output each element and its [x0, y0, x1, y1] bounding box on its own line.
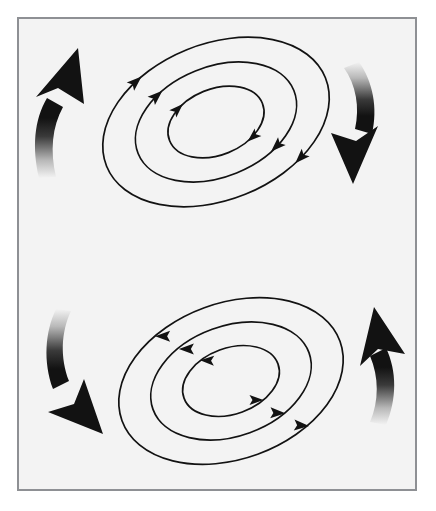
- lower-flow-arrow-5: [270, 407, 285, 419]
- lower-flow-arrow-1: [155, 331, 170, 342]
- lower-right-arrow: [360, 307, 405, 425]
- lower-flow-arrow-4: [249, 395, 263, 405]
- lower-vortex-ring-middle: [134, 301, 328, 461]
- lower-left-arrow: [47, 309, 103, 434]
- lower-right-arrow-shaft: [370, 348, 394, 425]
- upper-left-arrow-shaft: [35, 98, 63, 178]
- lower-vortex-ring-outer: [95, 268, 366, 494]
- upper-left-arrow-head: [36, 48, 84, 104]
- vortex-diagram: [0, 0, 436, 511]
- upper-vortex-ring-outer: [77, 5, 354, 238]
- upper-vortex-ring-inner: [157, 73, 274, 172]
- lower-left-arrow-shaft: [47, 309, 71, 389]
- upper-right-arrow: [331, 62, 378, 184]
- figure-root: [0, 0, 436, 511]
- upper-vortex-ring-middle: [118, 40, 315, 205]
- upper-left-arrow: [35, 48, 84, 178]
- lower-vortex: [95, 268, 366, 494]
- upper-right-arrow-head: [331, 126, 378, 184]
- lower-flow-arrow-3: [200, 355, 214, 365]
- upper-right-arrow-shaft: [344, 62, 374, 134]
- upper-vortex: [77, 5, 354, 238]
